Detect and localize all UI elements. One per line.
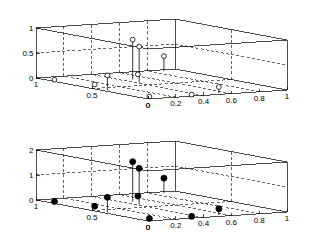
data-point-marker (52, 77, 57, 82)
ztick-label: 2 (29, 146, 34, 155)
xtick-label: 0.8 (254, 216, 266, 225)
tick-labels: 01200.5100.20.40.60.81 (29, 146, 290, 232)
ztick-label: 1 (29, 24, 34, 33)
xtick-label: 0.4 (198, 219, 210, 228)
ytick-label: 0.5 (86, 91, 98, 100)
data-point-marker (92, 82, 97, 87)
data-point-marker (137, 44, 142, 49)
data-point-marker (136, 165, 142, 171)
xtick-label: 0.8 (254, 94, 266, 103)
ytick-label: 1 (34, 80, 39, 89)
grid-lines (36, 21, 287, 97)
ytick-label: 0.5 (86, 213, 98, 222)
stem-plot-bottom: 01200.5100.20.40.60.81 (0, 122, 311, 243)
data-point-marker (161, 175, 167, 181)
data-point-marker (189, 213, 195, 219)
top-stem-plot: 00.5100.5100.20.40.60.81 (0, 0, 311, 121)
xtick-label: 0 (146, 223, 151, 232)
data-point-marker (104, 194, 110, 200)
ztick-label: 0.5 (22, 49, 34, 58)
ytick-label: 1 (34, 202, 39, 211)
axes-box (36, 141, 287, 221)
data-point-marker (135, 72, 140, 77)
axis-top-front-right (148, 162, 287, 171)
bottom-stem-plot: 01200.5100.20.40.60.81 (0, 122, 311, 243)
gridline-floor-y (92, 202, 231, 211)
data-point-marker (130, 37, 135, 42)
xtick-label: 1 (285, 214, 290, 223)
data-markers (52, 37, 221, 99)
xtick-label: 0.6 (226, 96, 238, 105)
gridline-floor-y (92, 80, 231, 89)
ztick-label: 1 (29, 171, 34, 180)
stem-lines (54, 40, 218, 98)
data-point-marker (216, 85, 221, 90)
tick-labels: 00.5100.5100.20.40.60.81 (22, 24, 289, 110)
axes-box (36, 19, 287, 99)
data-point-marker (216, 206, 222, 212)
xtick-label: 0.6 (226, 218, 238, 227)
data-point-marker (135, 193, 141, 199)
axis-floor-front-right (148, 212, 287, 221)
xtick-label: 0.2 (170, 221, 182, 230)
xtick-label: 0 (146, 101, 151, 110)
grid-lines (36, 143, 287, 219)
axis-floor-front-right (148, 90, 287, 99)
data-point-marker (130, 159, 136, 165)
axis-top-back-left (36, 19, 175, 28)
figure-root: 00.5100.5100.20.40.60.81 01200.5100.20.4… (0, 0, 311, 243)
axis-top-back-left (36, 141, 175, 150)
data-point-marker (51, 199, 57, 205)
data-point-marker (162, 54, 167, 59)
data-point-marker (146, 216, 152, 222)
xtick-label: 0.4 (198, 97, 210, 106)
axis-top-front-right (148, 40, 287, 49)
xtick-label: 1 (285, 92, 290, 101)
data-point-marker (105, 73, 110, 78)
data-point-marker (92, 203, 98, 209)
stem-plot-top: 00.5100.5100.20.40.60.81 (0, 0, 311, 121)
data-point-marker (189, 92, 194, 97)
xtick-label: 0.2 (170, 99, 182, 108)
